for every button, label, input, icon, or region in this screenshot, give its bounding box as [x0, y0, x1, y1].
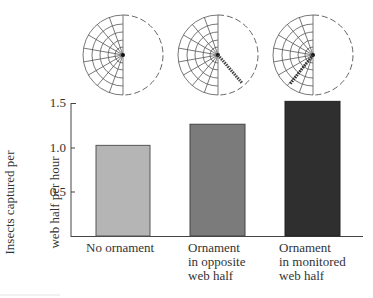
- category-label-no-ornament: No ornament: [86, 241, 154, 255]
- y-axis-label: Insects captured per web half per hour: [0, 128, 77, 278]
- category-label-ornament-monitored: Ornament in monitored web half: [279, 241, 346, 283]
- bar-ornament-monitored: [285, 101, 340, 236]
- bar-ornament-opposite: [190, 124, 245, 236]
- y-tick-label-1.5: 1.5: [36, 95, 66, 111]
- y-axis-label-line2: web half per hour: [47, 128, 62, 278]
- category-label-ornament-opposite: Ornament in opposite web half: [188, 241, 245, 283]
- web-diagram-ornament-opposite: [178, 15, 258, 95]
- bar-no-ornament: [96, 145, 150, 236]
- web-diagram-no-ornament: [83, 15, 163, 95]
- y-axis-label-line1: Insects captured per: [2, 128, 17, 278]
- ornament-stabilimentum: [218, 55, 242, 83]
- web-diagram-ornament-monitored: [273, 15, 353, 95]
